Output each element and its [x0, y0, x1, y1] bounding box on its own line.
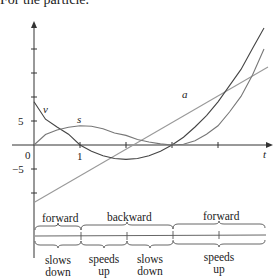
origin-0: 0: [25, 149, 31, 161]
speed-4-line2: up: [213, 263, 225, 276]
label-a: a: [182, 88, 188, 100]
speed-2-line2: up: [98, 265, 110, 278]
speed-3-line2: down: [137, 265, 163, 277]
curve-s: [34, 49, 264, 145]
y-tick-5: 5: [18, 115, 24, 127]
t-axis-arrow-icon: [266, 142, 273, 148]
x-tick-1: 1: [77, 150, 83, 162]
y-tick-neg5: −5: [12, 163, 24, 175]
label-t: t: [263, 148, 267, 160]
label-s: s: [77, 113, 81, 125]
curve-v: [34, 28, 264, 159]
direction-backward: backward: [107, 211, 152, 223]
y-axis-arrow-icon: [31, 21, 37, 28]
motion-graph: v s a t 5 0 −5 1 forward backward forwar…: [0, 0, 278, 279]
motion-diagram: forward backward forward slows down spee…: [35, 210, 266, 278]
speed-1-line1: slows: [45, 254, 72, 266]
direction-forward-2: forward: [203, 210, 240, 222]
speed-3-line1: slows: [137, 253, 164, 265]
label-v: v: [43, 103, 48, 115]
direction-forward-1: forward: [42, 212, 79, 224]
speed-1-line2: down: [45, 266, 71, 278]
